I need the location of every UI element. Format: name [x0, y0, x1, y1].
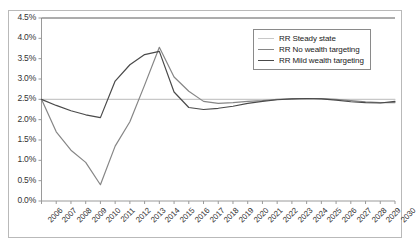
y-tick-label: 2.0% [2, 114, 36, 124]
chart-legend: RR Steady stateRR No wealth targetingRR … [253, 29, 371, 70]
y-tick-label: 1.0% [2, 154, 36, 164]
y-tick-label: 3.5% [2, 53, 36, 63]
legend-color-swatch [258, 38, 274, 39]
legend-label: RR Steady state [279, 34, 336, 43]
chart-container: 0.0%0.5%1.0%1.5%2.0%2.5%3.0%3.5%4.0%4.5%… [0, 0, 416, 248]
legend-color-swatch [258, 49, 274, 50]
legend-item[interactable]: RR Mild wealth targeting [258, 55, 364, 66]
y-tick-label: 0.5% [2, 175, 36, 185]
legend-item[interactable]: RR No wealth targeting [258, 44, 364, 55]
y-tick-label: 1.5% [2, 134, 36, 144]
y-tick-label: 2.5% [2, 93, 36, 103]
legend-color-swatch [258, 60, 274, 61]
y-tick-label: 4.0% [2, 32, 36, 42]
y-tick-label: 4.5% [2, 12, 36, 22]
legend-item[interactable]: RR Steady state [258, 33, 364, 44]
legend-label: RR No wealth targeting [279, 45, 360, 54]
y-tick-label: 3.0% [2, 73, 36, 83]
legend-label: RR Mild wealth targeting [279, 56, 364, 65]
y-tick-label: 0.0% [2, 195, 36, 205]
